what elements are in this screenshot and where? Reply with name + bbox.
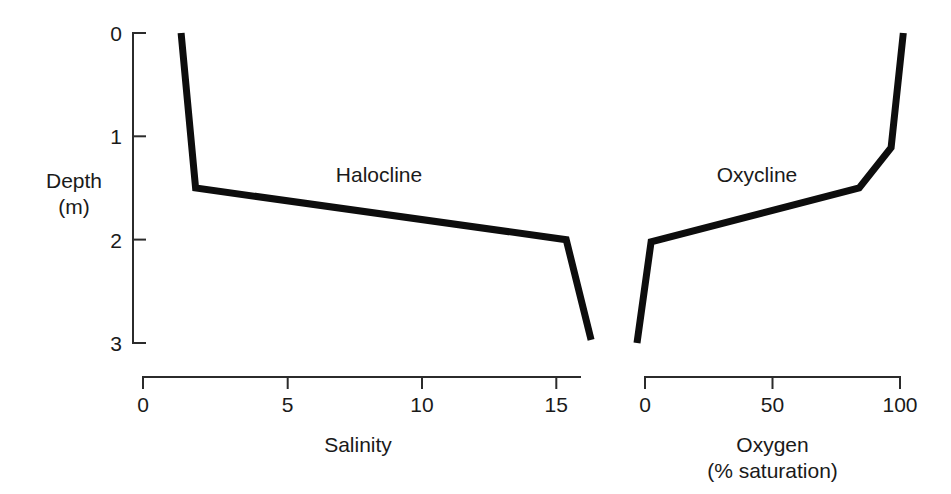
oxygen-profile-curve xyxy=(637,33,903,343)
oxygen-axis-subtitle: (% saturation) xyxy=(707,459,838,482)
oxygen-axis-title: Oxygen xyxy=(736,433,808,456)
salinity-tick-label-0: 0 xyxy=(137,393,149,416)
depth-axis-title-line2: (m) xyxy=(58,195,89,218)
salinity-axis-title: Salinity xyxy=(324,433,392,456)
depth-tick-label-2: 2 xyxy=(110,229,122,252)
depth-axis-title-line1: Depth xyxy=(46,169,102,192)
salinity-profile-curve xyxy=(181,33,591,340)
oxygen-panel: 0 50 100 Oxygen (% saturation) Oxycline xyxy=(637,33,918,482)
depth-tick-label-0: 0 xyxy=(110,22,122,45)
oxygen-tick-label-100: 100 xyxy=(882,393,917,416)
depth-tick-label-1: 1 xyxy=(110,125,122,148)
oxygen-tick-label-0: 0 xyxy=(639,393,651,416)
halocline-label: Halocline xyxy=(336,163,422,186)
salinity-tick-label-15: 15 xyxy=(545,393,568,416)
salinity-tick-label-10: 10 xyxy=(410,393,433,416)
depth-profile-figure: 0 1 2 3 Depth (m) 0 5 10 15 Salinity Hal… xyxy=(0,0,951,494)
depth-tick-label-3: 3 xyxy=(110,332,122,355)
profile-chart-svg: 0 1 2 3 Depth (m) 0 5 10 15 Salinity Hal… xyxy=(0,0,951,494)
salinity-panel: 0 5 10 15 Salinity Halocline xyxy=(137,33,591,456)
oxygen-tick-label-50: 50 xyxy=(761,393,784,416)
oxycline-label: Oxycline xyxy=(717,163,798,186)
salinity-tick-label-5: 5 xyxy=(282,393,294,416)
depth-axis: 0 1 2 3 Depth (m) xyxy=(46,22,145,355)
